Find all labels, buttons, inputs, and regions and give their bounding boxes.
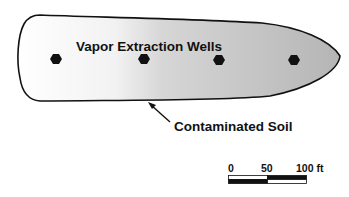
scale-tick-50: 50 [261, 162, 273, 174]
diagram-canvas: Vapor Extraction Wells Contaminated Soil… [0, 0, 349, 197]
scale-tick-100: 100 ft [296, 162, 324, 174]
vapor-extraction-wells-label: Vapor Extraction Wells [76, 39, 222, 54]
scale-tick-0: 0 [228, 162, 234, 174]
contaminated-soil-label: Contaminated Soil [174, 119, 293, 134]
scale-bar: 0 50 100 ft [228, 162, 324, 184]
soil-arrow-icon [148, 102, 170, 122]
